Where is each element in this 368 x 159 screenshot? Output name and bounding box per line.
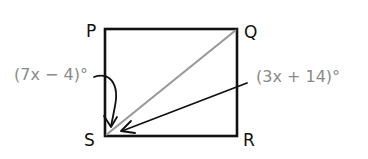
square-diagram: P Q S R (7x − 4)° (3x + 14)° bbox=[0, 0, 368, 159]
angle-label-3x-plus-14: (3x + 14)° bbox=[256, 67, 340, 86]
vertex-label-s: S bbox=[84, 130, 95, 150]
angle-label-7x-minus-4: (7x − 4)° bbox=[14, 65, 88, 84]
diagonal-sq bbox=[106, 30, 236, 135]
vertex-label-p: P bbox=[86, 21, 96, 41]
vertex-label-q: Q bbox=[244, 22, 257, 42]
vertex-label-r: R bbox=[243, 130, 255, 150]
